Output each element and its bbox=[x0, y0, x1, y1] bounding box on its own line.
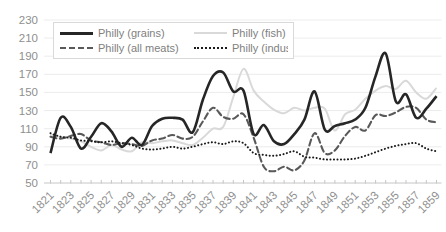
x-tick-label-1857: 1857 bbox=[395, 189, 422, 216]
legend-item-fish: Philly (fish) bbox=[194, 27, 288, 39]
x-tick-label-1837: 1837 bbox=[192, 189, 219, 216]
y-tick-label-90: 90 bbox=[25, 141, 38, 153]
x-tick-label-1855: 1855 bbox=[375, 189, 402, 216]
series-line-meats bbox=[51, 106, 437, 171]
y-tick-label-230: 230 bbox=[19, 14, 38, 26]
x-tick-label-1839: 1839 bbox=[212, 189, 239, 216]
x-tick-label-1825: 1825 bbox=[70, 189, 97, 216]
y-tick-label-210: 210 bbox=[19, 32, 38, 44]
x-tick-label-1835: 1835 bbox=[172, 189, 199, 216]
x-tick-label-1829: 1829 bbox=[111, 189, 138, 216]
legend-label-grains: Philly (grains) bbox=[98, 27, 165, 39]
industrial-line-sample bbox=[194, 47, 227, 49]
y-tick-label-170: 170 bbox=[19, 68, 38, 80]
x-tick-label-1831: 1831 bbox=[131, 189, 158, 216]
chart-legend: Philly (grains) Philly (fish) Philly (al… bbox=[53, 22, 294, 59]
y-tick-label-130: 130 bbox=[19, 105, 38, 117]
x-tick-label-1851: 1851 bbox=[334, 189, 361, 216]
x-tick-label-1821: 1821 bbox=[29, 189, 56, 216]
x-tick-label-1827: 1827 bbox=[90, 189, 117, 216]
price-index-line-chart: 5070901101301501701902102301821182318251… bbox=[0, 0, 446, 232]
y-tick-label-70: 70 bbox=[25, 159, 38, 171]
x-tick-label-1845: 1845 bbox=[273, 189, 300, 216]
legend-item-meats: Philly (all meats) bbox=[60, 42, 194, 54]
fish-line-sample bbox=[194, 32, 227, 34]
meats-line-sample bbox=[60, 47, 93, 49]
legend-label-fish: Philly (fish) bbox=[232, 27, 286, 39]
legend-label-industrial: Philly (industrial) bbox=[232, 42, 288, 54]
x-tick-label-1853: 1853 bbox=[354, 189, 381, 216]
grains-line-sample bbox=[60, 32, 93, 35]
x-tick-label-1849: 1849 bbox=[314, 189, 341, 216]
y-tick-label-50: 50 bbox=[25, 177, 38, 189]
x-tick-label-1833: 1833 bbox=[151, 189, 178, 216]
legend-item-grains: Philly (grains) bbox=[60, 27, 194, 39]
x-tick-label-1859: 1859 bbox=[415, 189, 442, 216]
y-tick-label-190: 190 bbox=[19, 50, 38, 62]
legend-label-meats: Philly (all meats) bbox=[98, 42, 179, 54]
x-tick-label-1843: 1843 bbox=[253, 189, 280, 216]
y-tick-label-110: 110 bbox=[20, 123, 38, 135]
x-tick-label-1841: 1841 bbox=[233, 189, 260, 216]
legend-item-industrial: Philly (industrial) bbox=[194, 42, 288, 54]
x-tick-label-1823: 1823 bbox=[50, 189, 77, 216]
x-tick-label-1847: 1847 bbox=[293, 189, 320, 216]
y-tick-label-150: 150 bbox=[19, 86, 38, 98]
